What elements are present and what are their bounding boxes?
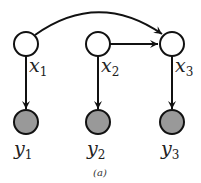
node-y2 [86,110,110,134]
node-x3 [160,32,184,56]
label-x1: x1 [29,54,47,79]
label-y3: y3 [160,137,179,162]
label-y2: y2 [86,137,105,162]
node-y3 [160,110,184,134]
node-x1 [14,32,38,56]
node-x2 [86,32,110,56]
node-y1 [14,110,38,134]
graphical-model: x1 x2 x3 y1 y2 y3 (a) [0,0,201,183]
label-y1: y1 [13,137,32,162]
caption: (a) [93,167,107,178]
label-x2: x2 [101,54,119,79]
label-x3: x3 [175,54,193,79]
